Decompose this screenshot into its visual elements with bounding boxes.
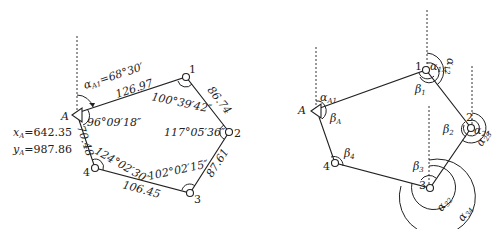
- angle-4: 124°02′30″: [93, 144, 153, 186]
- azimuth-arc-A1: [77, 95, 93, 107]
- control-point-triangle-icon: [311, 104, 321, 118]
- angle-A: 96°09′18″: [87, 116, 142, 129]
- distance-4A: 70.48: [74, 124, 96, 158]
- label-alpha-32: α32: [434, 192, 455, 214]
- arc-beta-A: [322, 106, 326, 119]
- label-beta-A: βA: [329, 112, 341, 126]
- label-A: A: [60, 110, 69, 123]
- label-beta-1: β1: [414, 83, 426, 97]
- coordinate-y-A: yA=987.86: [12, 143, 72, 157]
- station-4-marker: [332, 160, 339, 167]
- station-1-marker: [423, 67, 430, 74]
- label-A: A: [297, 104, 306, 117]
- label-alpha-34: α34: [455, 203, 476, 224]
- station-2-marker: [226, 129, 233, 136]
- label-4: 4: [83, 166, 90, 179]
- angle-2: 117°05′36″: [164, 126, 226, 139]
- label-beta-2: β2: [442, 123, 454, 137]
- control-point-triangle-icon: [72, 108, 82, 122]
- left-traverse-diagram: A 1 2 3 4 αA1=68°30′ xA=642.35 yA=987.86…: [12, 36, 241, 206]
- arrowhead-icon: [89, 103, 95, 107]
- right-traverse-diagram: A 1 2 3 4 αA1 βA α1A α12 β1 α21 α23 β2 β…: [297, 10, 494, 229]
- label-beta-4: β4: [343, 147, 355, 161]
- station-3-marker: [427, 185, 434, 192]
- label-2: 2: [234, 127, 241, 140]
- label-alpha-A1: αA1: [320, 91, 337, 105]
- label-alpha-12: α12: [443, 58, 457, 75]
- label-1: 1: [415, 60, 422, 73]
- label-3: 3: [419, 179, 426, 192]
- angle-1: 100°39′42″: [150, 90, 213, 116]
- label-2: 2: [466, 111, 473, 124]
- label-4: 4: [323, 160, 330, 173]
- station-3-marker: [187, 190, 194, 197]
- station-4-marker: [92, 165, 99, 172]
- label-3: 3: [194, 193, 201, 206]
- label-beta-3: β3: [412, 160, 424, 174]
- traverse-diagrams: A 1 2 3 4 αA1=68°30′ xA=642.35 yA=987.86…: [0, 0, 504, 229]
- label-1: 1: [189, 63, 196, 76]
- coordinate-x-A: xA=642.35: [13, 126, 72, 140]
- angle-3: 102°02′15″: [147, 157, 210, 183]
